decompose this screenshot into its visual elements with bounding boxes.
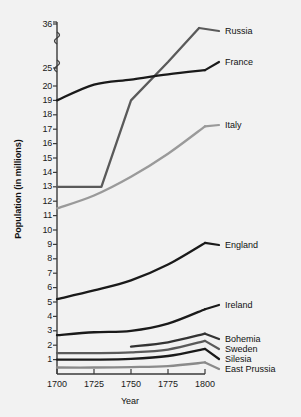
leader-russia — [199, 28, 219, 31]
y-tick-label: 13 — [20, 182, 52, 191]
y-tick-label: 36 — [20, 20, 52, 29]
leader-bohemia — [205, 334, 219, 339]
y-tick-label: 4 — [20, 312, 52, 321]
x-tick-label: 1800 — [185, 380, 225, 389]
y-tick-label: 17 — [20, 125, 52, 134]
y-tick-label: 16 — [20, 139, 52, 148]
y-tick-label: 1 — [20, 355, 52, 364]
series-label-silesia: Silesia — [225, 354, 252, 364]
y-tick-label: 8 — [20, 254, 52, 263]
y-tick-label: 18 — [20, 110, 52, 119]
y-tick-label: 6 — [20, 283, 52, 292]
leader-england — [205, 243, 219, 245]
y-tick-label: 10 — [20, 226, 52, 235]
series-line-italy — [57, 126, 205, 208]
leader-ireland — [205, 305, 219, 309]
y-tick-label: 2 — [20, 341, 52, 350]
series-label-england: England — [225, 240, 258, 250]
x-tick-label: 1725 — [74, 380, 114, 389]
series-line-russia — [57, 28, 199, 187]
x-axis-title: Year — [55, 396, 205, 406]
series-label-bohemia: Bohemia — [225, 334, 261, 344]
y-axis-title: Population (in millions) — [13, 119, 23, 259]
chart-axes — [57, 22, 205, 374]
series-lines — [57, 28, 205, 368]
label-leaders — [199, 28, 219, 369]
y-tick-label: 5 — [20, 298, 52, 307]
x-tick-label: 1700 — [37, 380, 77, 389]
y-tick-label: 14 — [20, 168, 52, 177]
y-tick-label: 11 — [20, 211, 52, 220]
series-label-italy: Italy — [225, 120, 242, 130]
y-tick-label: 12 — [20, 197, 52, 206]
x-tick-label: 1775 — [148, 380, 188, 389]
x-axis-ticks — [57, 369, 205, 374]
leader-france — [205, 62, 219, 70]
series-line-england — [57, 243, 205, 299]
y-tick-label: 3 — [20, 326, 52, 335]
y-tick-label: 25 — [20, 64, 52, 73]
y-tick-label: 20 — [20, 82, 52, 91]
y-tick-label: 15 — [20, 154, 52, 163]
leader-silesia — [205, 349, 219, 359]
series-label-east-prussia: East Prussia — [225, 364, 276, 374]
series-line-ireland — [57, 309, 205, 335]
y-tick-label: 19 — [20, 96, 52, 105]
series-line-france — [57, 70, 205, 100]
series-label-sweden: Sweden — [225, 344, 258, 354]
series-line-east-prussia — [57, 362, 205, 367]
population-line-chart: 12345678910111213141516171819202536 1700… — [0, 0, 301, 417]
series-label-russia: Russia — [225, 26, 253, 36]
leader-sweden — [205, 341, 219, 349]
series-label-france: France — [225, 57, 253, 67]
leader-italy — [205, 125, 219, 126]
x-tick-label: 1750 — [111, 380, 151, 389]
series-label-ireland: Ireland — [225, 300, 253, 310]
leader-east-prussia — [205, 362, 219, 369]
y-tick-label: 9 — [20, 240, 52, 249]
y-tick-label: 7 — [20, 269, 52, 278]
